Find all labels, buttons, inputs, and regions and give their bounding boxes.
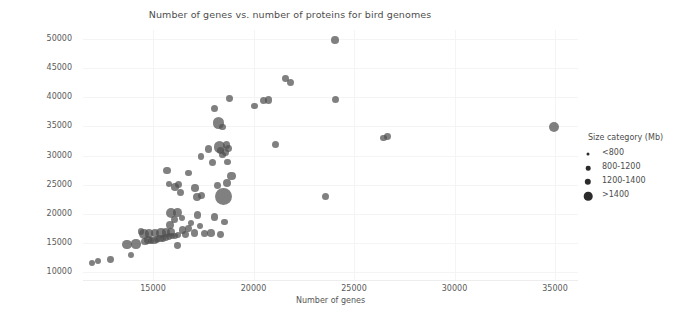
legend-item[interactable]: 800-1200 xyxy=(588,161,692,175)
x-tick-label: 15000 xyxy=(123,284,183,293)
legend-rows: <800800-12001200-1400>1400 xyxy=(588,147,692,203)
legend-title: Size category (Mb) xyxy=(588,133,692,142)
legend-marker-icon xyxy=(584,192,593,201)
legend-item[interactable]: <800 xyxy=(588,147,692,161)
legend-marker-icon xyxy=(585,179,591,185)
legend-item-label: 1200-1400 xyxy=(602,176,646,185)
legend-marker-icon xyxy=(586,166,591,171)
scatter-plot-figure: Number of genes vs. number of proteins f… xyxy=(0,0,695,317)
legend-item-label: 800-1200 xyxy=(602,162,641,171)
legend-item-label: <800 xyxy=(602,148,624,157)
legend-item[interactable]: >1400 xyxy=(588,189,692,203)
x-tick-label: 30000 xyxy=(425,284,485,293)
x-tick-label: 35000 xyxy=(525,284,585,293)
x-axis-title: Number of genes xyxy=(83,296,578,305)
x-tick-label: 25000 xyxy=(324,284,384,293)
legend-item[interactable]: 1200-1400 xyxy=(588,175,692,189)
x-tick-label: 20000 xyxy=(224,284,284,293)
legend-item-label: >1400 xyxy=(602,190,629,199)
legend-marker-icon xyxy=(587,153,590,156)
legend: Size category (Mb) <800800-12001200-1400… xyxy=(588,133,692,203)
